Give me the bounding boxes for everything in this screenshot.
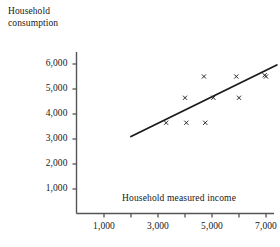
y-tick-label: 6,000 [28,58,68,68]
data-point-marker [202,74,206,78]
y-tick-label: 1,000 [28,183,68,193]
y-tick-label: 4,000 [28,108,68,118]
data-point-marker [183,96,187,100]
axes-group [77,52,275,214]
data-point-marker [184,121,188,125]
regression-line-path [131,65,277,137]
data-points-group [164,73,268,125]
data-point-marker [203,121,207,125]
data-point-marker [263,73,267,77]
chart-root: Household consumption Household measured… [0,0,280,247]
tick-marks-group [73,64,267,218]
x-tick-label: 1,000 [84,221,124,231]
y-tick-label: 5,000 [28,83,68,93]
regression-line [131,65,277,137]
data-point-marker [234,74,238,78]
x-tick-label: 3,000 [138,221,178,231]
y-tick-label: 2,000 [28,158,68,168]
x-tick-label: 7,000 [246,221,280,231]
data-point-marker [237,96,241,100]
x-tick-label: 5,000 [192,221,232,231]
data-point-marker [164,121,168,125]
y-tick-label: 3,000 [28,133,68,143]
chart-canvas [0,0,280,247]
